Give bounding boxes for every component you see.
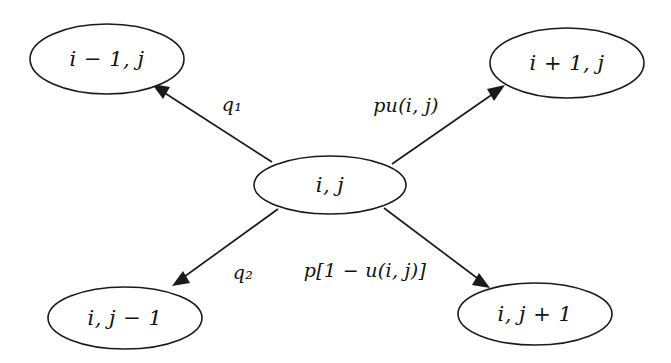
edge-label-p1u: p[1 − u(i, j)] — [304, 259, 427, 281]
node-label-center: i, j — [316, 173, 345, 197]
edge-center-to-up-left — [152, 84, 272, 162]
node-up-left[interactable]: i − 1, j — [30, 24, 184, 94]
transition-diagram: q₁ pu(i, j) q₂ p[1 − u(i, j)] i − 1, j i… — [0, 0, 671, 363]
node-low-right[interactable]: i, j + 1 — [458, 283, 612, 345]
node-label-up-left: i − 1, j — [70, 47, 145, 71]
edge-label-q2: q₂ — [233, 261, 253, 283]
edge-label-q1: q₁ — [222, 93, 242, 115]
diagram-canvas: q₁ pu(i, j) q₂ p[1 − u(i, j)] i − 1, j i… — [0, 0, 671, 363]
edge-center-to-low-left — [172, 209, 278, 286]
node-label-low-left: i, j − 1 — [88, 306, 163, 330]
node-low-left[interactable]: i, j − 1 — [48, 287, 202, 349]
node-label-low-right: i, j + 1 — [498, 302, 573, 326]
edge-label-pu: pu(i, j) — [373, 94, 439, 116]
node-group: i − 1, j i + 1, j i, j i, j − 1 i, j + 1 — [30, 24, 644, 349]
node-label-up-right: i + 1, j — [530, 51, 605, 75]
node-center[interactable]: i, j — [254, 156, 406, 214]
edge-line-q1 — [157, 88, 272, 162]
node-up-right[interactable]: i + 1, j — [490, 28, 644, 98]
arrow-head-up-right — [487, 85, 505, 101]
arrow-head-low-left — [172, 271, 190, 286]
edge-line-q2 — [177, 209, 278, 282]
